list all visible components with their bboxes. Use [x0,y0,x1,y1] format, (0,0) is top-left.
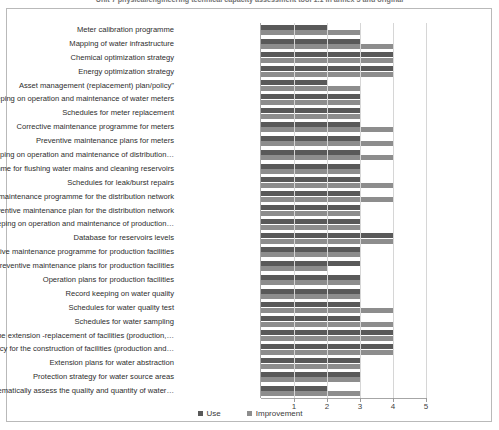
gridline [294,23,295,398]
bar-use [261,191,360,196]
chart-title: Unit 7 physical/engineering technical ca… [0,0,499,4]
bar-improvement [261,100,360,105]
chart-frame: Meter calibration programmeMapping of wa… [6,8,492,422]
bar-use [261,108,360,113]
chart-row: Corrective maintenance programme for pro… [261,245,426,259]
bar-use [261,219,360,224]
chart-row: Preventive maintenance plans for product… [261,259,426,273]
category-label: Schedules for meter replacement [62,106,174,120]
chart-title-strip: Unit 7 physical/engineering technical ca… [0,0,499,7]
gridline [426,23,427,398]
bar-use [261,275,360,280]
category-label: Record keeping on operation and maintena… [0,217,174,231]
bar-use [261,247,360,252]
bar-use [261,358,360,363]
category-label: Policy for the construction of facilitie… [0,342,174,356]
category-label: Record keeping on operation and maintena… [0,92,174,106]
category-label: Corrective maintenance programme for pro… [0,245,174,259]
category-label: Record keeping on water quality [66,287,175,301]
category-label: Preventive maintenance plans for meters [36,134,174,148]
bar-use [261,164,360,169]
legend-swatch-improvement-icon [247,411,252,416]
category-label: Plans to systematically assess the quali… [0,384,174,398]
chart-row: Mapping of water infrastructure [261,37,426,51]
category-label: Energy optimization strategy [78,65,174,79]
chart-row: Programme for flushing water mains and c… [261,162,426,176]
bar-improvement [261,391,360,396]
legend-item-use: Use [198,409,221,418]
bar-use [261,177,360,182]
bar-improvement [261,252,360,257]
bar-improvement [261,86,360,91]
category-axis-line [261,398,427,399]
gridline [393,23,394,398]
chart-row: Preventive maintenance plan for the dist… [261,204,426,218]
chart-row: Plans for the extension -replacement of … [261,329,426,343]
bar-improvement [261,30,360,35]
chart-row: Record keeping on operation and maintena… [261,92,426,106]
bar-use [261,316,360,321]
category-label: Extension plans for water abstraction [49,356,174,370]
bar-use [261,302,360,307]
bar-use [261,94,360,99]
chart-row: Record keeping on operation and maintena… [261,217,426,231]
category-label: Operation plans for production facilitie… [43,273,174,287]
bar-use [261,122,360,127]
chart-row: Meter calibration programme [261,23,426,37]
category-label: Programme for flushing water mains and c… [0,162,174,176]
legend-swatch-use-icon [198,411,203,416]
category-label: Protection strategy for water source are… [33,370,174,384]
chart-legend: Use Improvement [7,409,493,418]
bar-use [261,150,360,155]
chart-row: Database for reservoirs levels [261,231,426,245]
chart-row: Schedules for water quality test [261,301,426,315]
chart-row: Record keeping on operation and maintena… [261,148,426,162]
category-label: Mapping of water infrastructure [69,37,174,51]
bar-improvement [261,364,360,369]
chart-row: Corrective maintenance programme for the… [261,190,426,204]
category-label: Schedules for leak/burst repairs [67,176,174,190]
bar-improvement [261,377,360,382]
chart-row: Energy optimization strategy [261,65,426,79]
legend-label-use: Use [207,409,221,418]
chart-row: Extension plans for water abstraction [261,356,426,370]
category-label: Plans for the extension -replacement of … [0,329,174,343]
plot-area: Meter calibration programmeMapping of wa… [261,23,426,398]
category-label: Schedules for water sampling [74,315,174,329]
chart-row: Protection strategy for water source are… [261,370,426,384]
category-label: Asset management (replacement) plan/poli… [19,79,174,93]
category-label: Preventive maintenance plan for the dist… [0,204,174,218]
bar-improvement [261,294,360,299]
bar-use [261,205,360,210]
category-label: Corrective maintenance programme for met… [17,120,174,134]
bar-improvement [261,280,360,285]
category-label: Meter calibration programme [77,23,174,37]
bar-improvement [261,169,360,174]
bar-use [261,261,360,266]
bar-use [261,289,360,294]
category-label: Chemical optimization strategy [71,51,174,65]
category-label: Schedules for water quality test [68,301,174,315]
chart-root: Unit 7 physical/engineering technical ca… [0,0,499,430]
chart-row: Preventive maintenance plans for meters [261,134,426,148]
bar-use [261,136,360,141]
bar-improvement [261,225,360,230]
bar-improvement [261,114,360,119]
category-label: Corrective maintenance programme for the… [0,190,174,204]
category-label: Database for reservoirs levels [74,231,174,245]
legend-item-improvement: Improvement [247,409,303,418]
legend-label-improvement: Improvement [256,409,303,418]
category-label: Record keeping on operation and maintena… [0,148,174,162]
category-label: Preventive maintenance plans for product… [0,259,174,273]
chart-row: Chemical optimization strategy [261,51,426,65]
chart-row: Record keeping on water quality [261,287,426,301]
bar-improvement [261,211,360,216]
chart-row: Operation plans for production facilitie… [261,273,426,287]
gridline [327,23,328,398]
bar-use [261,39,360,44]
chart-row: Schedules for water sampling [261,315,426,329]
chart-row: Asset management (replacement) plan/poli… [261,79,426,93]
chart-row: Policy for the construction of facilitie… [261,342,426,356]
bar-use [261,372,360,377]
gridline [360,23,361,398]
